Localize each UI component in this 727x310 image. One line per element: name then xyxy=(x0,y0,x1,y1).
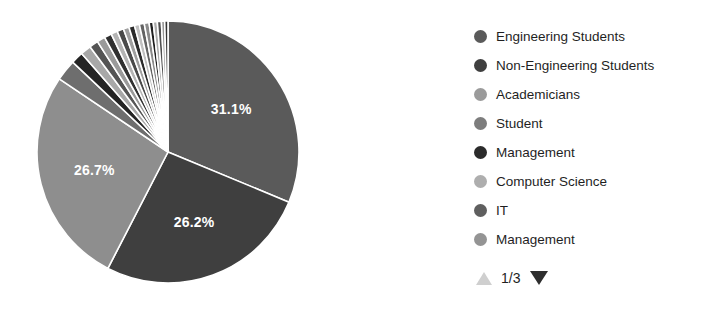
legend-swatch-circle-icon xyxy=(474,233,487,246)
legend-item-label: Non-Engineering Students xyxy=(496,59,654,73)
legend-item-label: Academicians xyxy=(496,88,580,102)
legend-pager: 1/3 xyxy=(476,267,548,289)
pie-chart-widget: 31.1%26.2%26.7% Engineering StudentsNon-… xyxy=(0,0,727,310)
legend-item[interactable]: Engineering Students xyxy=(474,22,724,51)
legend-item-label: IT xyxy=(496,204,508,218)
pager-page-indicator: 1/3 xyxy=(501,271,520,285)
legend-item-label: Student xyxy=(496,117,543,131)
legend-item[interactable]: Non-Engineering Students xyxy=(474,51,724,80)
legend-item-label: Management xyxy=(496,233,575,247)
legend-item[interactable]: Academicians xyxy=(474,80,724,109)
legend-swatch-circle-icon xyxy=(474,117,487,130)
legend-item-label: Computer Science xyxy=(496,175,607,189)
legend-swatch-circle-icon xyxy=(474,88,487,101)
legend-item[interactable]: Management xyxy=(474,138,724,167)
legend-item[interactable]: Management xyxy=(474,225,724,254)
legend-item-label: Management xyxy=(496,146,575,160)
legend-item-label: Engineering Students xyxy=(496,30,625,44)
legend-swatch-circle-icon xyxy=(474,146,487,159)
legend-swatch-circle-icon xyxy=(474,175,487,188)
pie-chart-svg: 31.1%26.2%26.7% xyxy=(0,0,400,310)
pie-slice-group xyxy=(37,21,299,283)
triangle-down-icon[interactable] xyxy=(530,271,548,285)
legend-item[interactable]: Computer Science xyxy=(474,167,724,196)
chart-legend: Engineering StudentsNon-Engineering Stud… xyxy=(474,22,724,254)
pie-slice-percent-label: 31.1% xyxy=(211,101,252,117)
triangle-up-icon[interactable] xyxy=(476,272,492,285)
legend-swatch-circle-icon xyxy=(474,30,487,43)
pie-chart-area: 31.1%26.2%26.7% xyxy=(0,0,400,310)
legend-swatch-circle-icon xyxy=(474,59,487,72)
legend-swatch-circle-icon xyxy=(474,204,487,217)
pie-slice-percent-label: 26.2% xyxy=(174,214,215,230)
pie-slice-percent-label: 26.7% xyxy=(74,162,115,178)
legend-item[interactable]: Student xyxy=(474,109,724,138)
legend-item[interactable]: IT xyxy=(474,196,724,225)
